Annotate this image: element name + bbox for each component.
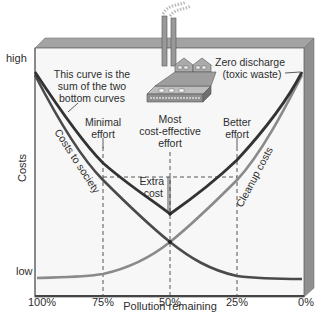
minimum-point bbox=[168, 212, 171, 215]
svg-text:This curve is the: This curve is the bbox=[54, 68, 131, 80]
svg-text:Better: Better bbox=[223, 116, 252, 128]
x-tick-75: 75% bbox=[92, 296, 114, 308]
svg-text:Most: Most bbox=[159, 113, 182, 125]
svg-text:(toxic waste): (toxic waste) bbox=[223, 68, 282, 80]
x-tick-0: 0% bbox=[298, 296, 314, 308]
x-axis-title: Pollution remaining bbox=[123, 300, 217, 312]
svg-text:effort: effort bbox=[91, 128, 115, 140]
sum-note: This curve is the sum of the two bottom … bbox=[54, 68, 131, 104]
svg-text:Zero discharge: Zero discharge bbox=[215, 56, 285, 68]
cost-curves-diagram: high low Costs 100% 75% 50% 25% 0% Pollu… bbox=[0, 0, 322, 315]
svg-text:cost: cost bbox=[144, 187, 163, 199]
y-high-label: high bbox=[6, 52, 27, 64]
intersection-point bbox=[168, 240, 172, 244]
x-tick-25: 25% bbox=[226, 296, 248, 308]
extra-cost-label: Extra cost bbox=[139, 175, 164, 199]
svg-text:sum of the two: sum of the two bbox=[58, 80, 126, 92]
x-tick-100: 100% bbox=[28, 296, 56, 308]
svg-text:effort: effort bbox=[225, 128, 249, 140]
better-effort-label: Better effort bbox=[223, 116, 252, 140]
svg-text:bottom curves: bottom curves bbox=[59, 92, 125, 104]
svg-text:effort: effort bbox=[158, 137, 182, 149]
frame-right-bevel bbox=[304, 38, 314, 297]
zero-discharge-label: Zero discharge (toxic waste) bbox=[215, 56, 285, 80]
y-axis-title: Costs bbox=[16, 153, 28, 182]
svg-text:Extra: Extra bbox=[139, 175, 164, 187]
svg-text:Minimal: Minimal bbox=[85, 116, 121, 128]
svg-text:cost-effective: cost-effective bbox=[139, 125, 201, 137]
y-low-label: low bbox=[16, 265, 33, 277]
